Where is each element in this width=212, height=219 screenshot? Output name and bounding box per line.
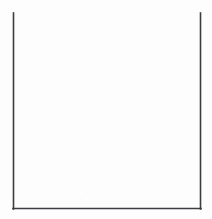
region-tiny-top-right [67, 62, 76, 70]
figure-canvas: Recursive square subdivision A large squ… [0, 0, 212, 219]
region-small-right-of-tiny [76, 62, 108, 78]
region-group [13, 13, 201, 209]
region-tiny-bottom-right [67, 70, 76, 78]
region-mid-left-band [13, 62, 59, 110]
square-subdivision-diagram: Recursive square subdivision A large squ… [0, 0, 212, 219]
region-top-middle-upper [59, 13, 108, 62]
region-mid-lower-left [59, 78, 76, 110]
region-top-left-upper [13, 13, 59, 62]
region-top-right-large [108, 13, 201, 110]
region-bottom-right-large [108, 110, 201, 209]
region-bottom-left-large [13, 110, 108, 209]
region-tiny-top-left [59, 62, 67, 70]
region-tiny-bottom-left [59, 70, 67, 78]
region-mid-lower-right [76, 78, 108, 110]
